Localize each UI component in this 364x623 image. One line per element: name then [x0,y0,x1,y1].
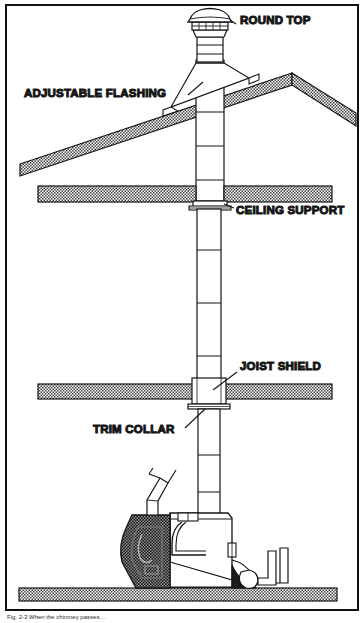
floor-joist-slab [38,384,332,399]
floor-slab [19,588,337,601]
label-round-top: ROUND TOP [240,14,311,26]
label-ceiling-support: CEILING SUPPORT [236,204,344,216]
insulated-chimney-pipe-lower [198,409,220,519]
drain-trap-pipe [232,548,288,588]
angled-feed-pipe [147,468,176,515]
trim-collar-ring [188,404,230,409]
label-joist-shield: JOIST SHIELD [240,360,321,372]
label-trim-collar: TRIM COLLAR [93,423,175,435]
insulated-chimney-pipe-upper [196,86,224,201]
label-adjustable-flashing: ADJUSTABLE FLASHING [24,87,166,99]
wood-stove-boiler-unit [170,513,236,587]
insulated-chimney-pipe-middle [197,209,221,381]
figure-caption: Fig. 2-3 When the chimney passes… [7,613,357,621]
round-top-cap [188,9,232,38]
joist-shield-box [192,378,226,404]
figure-page: ROUND TOP ADJUSTABLE FLASHING CEILING SU… [0,0,364,623]
fuel-hopper [121,515,170,588]
ceiling-slab [38,186,332,202]
chimney-stack-above-roof [197,37,223,62]
chimney-installation-diagram: ROUND TOP ADJUSTABLE FLASHING CEILING SU… [0,0,364,623]
